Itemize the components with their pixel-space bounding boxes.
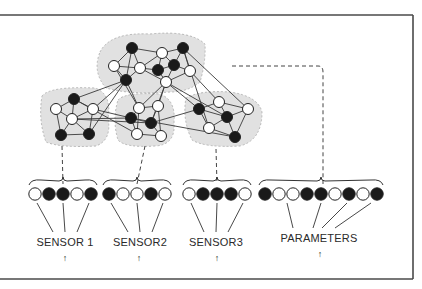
empty-node [88, 104, 99, 115]
empty-node [204, 123, 215, 134]
empty-input-node [29, 188, 41, 200]
empty-node [185, 66, 196, 77]
sensor2-pointer-line [137, 203, 140, 232]
empty-input-node [183, 188, 195, 200]
parameters-label: PARAMETERS [281, 232, 358, 244]
sensor2-pointer-line [111, 203, 128, 232]
sensor3-arrow-icon: ↑ [215, 253, 220, 263]
empty-node [109, 61, 120, 72]
filled-input-node [301, 188, 313, 200]
empty-node [135, 63, 146, 74]
empty-input-node [239, 188, 251, 200]
filled-input-node [211, 188, 223, 200]
sensor1-pointer-line [77, 203, 89, 232]
sensor2-label: SENSOR2 [113, 236, 167, 248]
filled-node [69, 94, 80, 105]
empty-node [67, 114, 78, 125]
filled-input-node [85, 188, 97, 200]
parameters-pointer-line [335, 203, 371, 228]
empty-node [153, 101, 164, 112]
sensor2-pointer-line [152, 203, 163, 232]
parameters-arrow-icon: ↑ [318, 249, 323, 259]
sensor1-pointer-line [37, 203, 53, 232]
filled-input-node [225, 188, 237, 200]
sensor3-pointer-line [191, 203, 204, 232]
empty-input-node [287, 188, 299, 200]
sensor1-arrow-icon: ↑ [63, 253, 68, 263]
filled-node [121, 75, 132, 86]
empty-input-node [131, 188, 143, 200]
empty-node [161, 77, 172, 88]
empty-node [157, 48, 168, 59]
filled-input-node [103, 188, 115, 200]
empty-input-node [273, 188, 285, 200]
filled-input-node [197, 188, 209, 200]
empty-input-node [159, 188, 171, 200]
empty-node [214, 97, 225, 108]
filled-input-node [145, 188, 157, 200]
filled-node [126, 113, 137, 124]
diagram-canvas: SENSOR 1 SENSOR2 SENSOR3 PARAMETERS ↑ ↑ … [0, 0, 422, 289]
dashed-connector [137, 146, 145, 184]
filled-node [153, 65, 164, 76]
filled-node [222, 112, 233, 123]
parameters-pointer-line [313, 203, 321, 228]
empty-input-node [117, 188, 129, 200]
empty-node [132, 129, 143, 140]
sensor1-pointer-line [63, 203, 65, 232]
empty-node [51, 104, 62, 115]
parameters-pointer-line [322, 203, 347, 228]
filled-node [169, 60, 180, 71]
empty-node [134, 103, 145, 114]
filled-input-node [57, 188, 69, 200]
empty-node [156, 131, 167, 142]
sensor3-pointer-line [216, 203, 217, 232]
sensor3-label: SENSOR3 [189, 236, 243, 248]
filled-node [84, 129, 95, 140]
empty-node [243, 104, 254, 115]
sensor1-label: SENSOR 1 [36, 236, 93, 248]
input-encoding-rows [29, 177, 383, 232]
empty-input-node [357, 188, 369, 200]
filled-input-node [43, 188, 55, 200]
empty-input-node [71, 188, 83, 200]
filled-node [127, 43, 138, 54]
sensor3-pointer-line [228, 203, 243, 232]
parameters-brace [259, 177, 383, 185]
filled-input-node [371, 188, 383, 200]
filled-node [178, 43, 189, 54]
filled-input-node [343, 188, 355, 200]
filled-node [56, 130, 67, 141]
filled-node [146, 118, 157, 129]
filled-node [230, 132, 241, 143]
sensor2-arrow-icon: ↑ [137, 253, 142, 263]
empty-input-node [329, 188, 341, 200]
sensor3-brace [183, 177, 251, 185]
network-clusters [41, 33, 262, 146]
parameters-pointer-line [287, 203, 293, 228]
filled-node [194, 104, 205, 115]
filled-input-node [315, 188, 327, 200]
filled-input-node [259, 188, 271, 200]
